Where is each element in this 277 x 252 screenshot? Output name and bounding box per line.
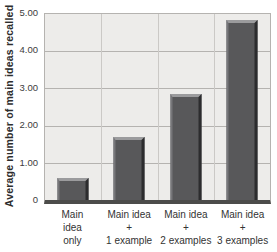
x-label-main-idea-only: Main idea only: [44, 208, 101, 247]
x-label-line: +: [158, 221, 215, 234]
y-tick-0: 0: [33, 195, 38, 205]
bar-main-idea-2-examples: [170, 94, 201, 200]
x-label-line: Main: [44, 208, 101, 221]
y-tick-2: 2.00: [20, 120, 39, 130]
x-label-1-example: Main idea + 1 example: [101, 208, 158, 247]
bar-columns: [45, 14, 270, 200]
x-label-line: idea: [44, 221, 101, 234]
x-label-line: Main idea: [158, 208, 215, 221]
bar-column: [214, 14, 270, 200]
bar-main-idea-3-examples: [226, 20, 257, 200]
y-axis-ticks: 5.00 4.00 3.00 2.00 1.00 0: [0, 0, 40, 252]
x-label-line: Main idea: [214, 208, 271, 221]
x-label-line: 1 example: [101, 234, 158, 247]
bar-main-idea-1-example: [114, 137, 145, 200]
x-label-line: +: [214, 221, 271, 234]
y-tick-5: 5.00: [20, 8, 39, 18]
x-axis-labels: Main idea only Main idea + 1 example Mai…: [44, 208, 271, 247]
x-label-line: only: [44, 234, 101, 247]
x-label-line: 3 examples: [214, 234, 271, 247]
bar-main-idea-only: [58, 178, 89, 200]
y-tick-4: 4.00: [20, 45, 39, 55]
y-tick-1: 1.00: [20, 158, 39, 168]
y-tick-3: 3.00: [20, 83, 39, 93]
x-label-line: 2 examples: [158, 234, 215, 247]
plot-area: [44, 13, 271, 204]
bar-column: [101, 14, 157, 200]
x-label-2-examples: Main idea + 2 examples: [158, 208, 215, 247]
bar-chart-figure: Average number of main ideas recalled 5.…: [0, 0, 277, 252]
bar-column: [45, 14, 101, 200]
x-label-line: Main idea: [101, 208, 158, 221]
x-label-3-examples: Main idea + 3 examples: [214, 208, 271, 247]
bar-column: [158, 14, 214, 200]
x-label-line: +: [101, 221, 158, 234]
